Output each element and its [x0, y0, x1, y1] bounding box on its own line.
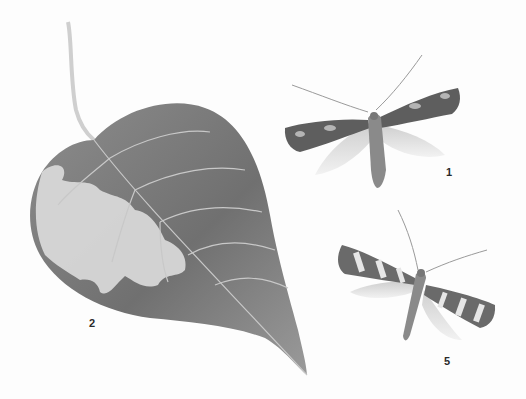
antenna-left	[292, 85, 368, 112]
moth-figure-5	[338, 210, 495, 340]
figure-label-1: 1	[446, 167, 452, 178]
illustration-plate: 1 2 5	[0, 0, 526, 399]
leaf-petiole	[68, 22, 94, 140]
figure-label-5: 5	[444, 356, 450, 367]
moth-head	[370, 112, 378, 120]
moth-head	[417, 269, 425, 277]
antenna-right	[426, 250, 487, 272]
moth-figure-1	[285, 55, 460, 188]
leaf-figure	[30, 22, 307, 375]
antenna-left	[398, 210, 418, 270]
hindwing-right	[378, 125, 445, 157]
plate-artwork	[0, 0, 526, 399]
figure-label-2: 2	[89, 318, 95, 329]
hindwing-left	[350, 282, 414, 298]
